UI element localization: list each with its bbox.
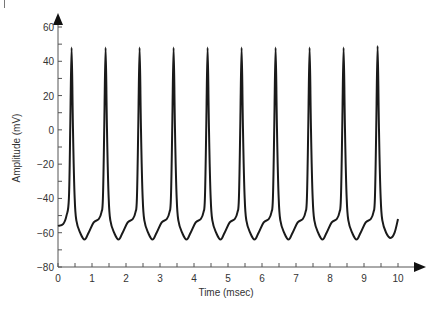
signal-trace (58, 46, 398, 240)
x-tick-label: 0 (55, 273, 61, 284)
y-axis: −80−60−40−200204060 (37, 13, 63, 273)
y-tick-label: 40 (43, 56, 55, 67)
y-tick-label: 60 (43, 22, 55, 33)
y-tick-label: −20 (37, 159, 54, 170)
x-tick-label: 5 (225, 273, 231, 284)
y-tick-label: −60 (37, 228, 54, 239)
y-tick-label: 20 (43, 91, 55, 102)
x-tick-label: 9 (361, 273, 367, 284)
y-tick-label: −40 (37, 193, 54, 204)
x-tick-label: 6 (259, 273, 265, 284)
x-tick-label: 1 (89, 273, 95, 284)
y-tick-label: −80 (37, 262, 54, 273)
y-tick-label: 0 (48, 125, 54, 136)
x-axis: 012345678910 (55, 262, 426, 284)
x-tick-label: 4 (191, 273, 197, 284)
y-axis-title: Amplitude (mV) (11, 114, 22, 183)
x-axis-arrow-icon (414, 262, 426, 272)
x-tick-label: 2 (123, 273, 129, 284)
x-axis-title: Time (msec) (198, 287, 253, 298)
x-tick-label: 10 (392, 273, 404, 284)
y-axis-arrow-icon (53, 13, 63, 25)
line-chart: −80−60−40−200204060 012345678910 Amplitu… (0, 0, 435, 311)
x-tick-label: 3 (157, 273, 163, 284)
x-tick-label: 8 (327, 273, 333, 284)
x-tick-label: 7 (293, 273, 299, 284)
